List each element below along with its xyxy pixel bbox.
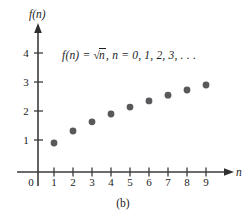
formula-annotation: f(n) = √n, n = 0, 1, 2, 3, . . . (62, 47, 196, 61)
data-point (51, 140, 58, 147)
x-tick-label-4: 4 (108, 176, 114, 188)
x-tick-label-5: 5 (127, 176, 133, 188)
y-axis-label: f(n) (29, 8, 46, 21)
data-point (184, 87, 191, 94)
x-tick-label-1: 1 (51, 176, 57, 188)
y-tick-label-4: 4 (23, 47, 29, 59)
y-axis-arrow-icon (34, 23, 42, 33)
figure-container: 4 3 2 1 0 1 2 3 4 5 6 7 8 9 f(n) n (0, 0, 246, 224)
formula-domain: , n = 0, 1, 2, 3, . . . (106, 49, 196, 61)
figure-caption: (b) (0, 197, 246, 209)
x-tick-label-7: 7 (165, 176, 171, 188)
formula-lhs: f(n) (62, 49, 79, 61)
origin-label: 0 (28, 176, 34, 188)
radicand: n (99, 48, 106, 61)
y-tick-label-2: 2 (23, 105, 29, 117)
x-tick-label-8: 8 (184, 176, 190, 188)
data-point (89, 118, 96, 125)
x-tick-label-3: 3 (89, 176, 95, 188)
x-axis-arrow-icon (224, 168, 234, 176)
data-point (70, 128, 77, 135)
radical-group: √n (94, 47, 106, 61)
data-point (165, 92, 172, 99)
x-tick-label-9: 9 (203, 176, 209, 188)
data-point (127, 104, 134, 111)
data-point (108, 111, 115, 118)
y-tick-label-1: 1 (23, 134, 29, 146)
y-tick-label-3: 3 (23, 76, 29, 88)
x-axis-label: n (236, 166, 242, 178)
x-tick-label-2: 2 (70, 176, 76, 188)
scatter-plot: 4 3 2 1 0 1 2 3 4 5 6 7 8 9 f(n) n (0, 0, 246, 224)
data-point (203, 82, 210, 89)
data-point (146, 98, 153, 105)
x-tick-label-6: 6 (146, 176, 152, 188)
formula-equals: = (79, 49, 93, 61)
